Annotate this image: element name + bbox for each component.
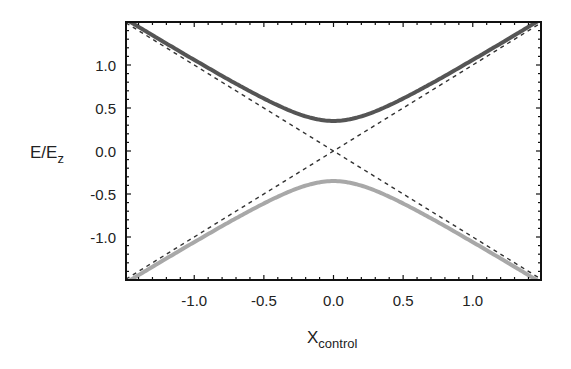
y-axis-label: E/Ez — [30, 143, 64, 166]
x-axis-label: Xcontrol — [307, 328, 357, 351]
y-tick-label: 1.0 — [95, 57, 116, 74]
upper-branch-curve — [126, 19, 541, 121]
lower-branch-curve — [126, 181, 541, 283]
y-tick-label: 0.5 — [95, 100, 116, 117]
plot-series — [126, 19, 541, 282]
x-tick-label: 0.5 — [393, 292, 414, 309]
y-tick-label: 0.0 — [95, 143, 116, 160]
x-tick-label: 0.0 — [323, 292, 344, 309]
x-tick-label: -1.0 — [181, 292, 207, 309]
x-tick-labels: -1.0-0.50.00.51.0 — [181, 292, 483, 309]
x-tick-label: 1.0 — [462, 292, 483, 309]
y-tick-label: -1.0 — [90, 229, 116, 246]
y-tick-label: -0.5 — [90, 186, 116, 203]
energy-level-chart: -1.0-0.50.00.51.0 1.00.50.0-0.5-1.0 Xcon… — [0, 0, 571, 369]
y-tick-labels: 1.00.50.0-0.5-1.0 — [90, 57, 116, 246]
x-tick-label: -0.5 — [251, 292, 277, 309]
